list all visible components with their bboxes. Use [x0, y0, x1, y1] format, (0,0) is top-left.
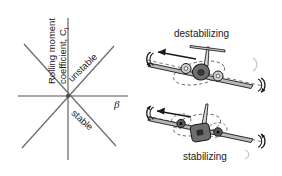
- bottom-engine-right-hub: [217, 131, 220, 134]
- top-engine-right-hub: [216, 74, 220, 78]
- top-cockpit-window: [198, 70, 204, 76]
- rolling-moment-plot: Rolling moment coefficient, Cl unstable …: [0, 0, 141, 176]
- origin-marker: [66, 94, 70, 98]
- bottom-engine-left-hub: [180, 122, 183, 125]
- y-axis-label-line1: Rolling moment: [47, 18, 57, 84]
- bottom-roll-arc-faint: [245, 150, 249, 159]
- bottom-sideslip-arrow: [157, 108, 191, 118]
- aircraft-diagram-panel: destabilizing stabilizing: [141, 0, 282, 176]
- figure-root: Rolling moment coefficient, Cl unstable …: [0, 0, 282, 176]
- top-aircraft-group: [146, 46, 265, 93]
- aircraft-svg: [141, 0, 282, 176]
- top-sideslip-arrow: [158, 49, 196, 60]
- plot-axes-svg: [0, 0, 141, 176]
- top-engine-left-hub: [184, 67, 188, 71]
- y-axis-label-subscript: l: [63, 28, 70, 29]
- bottom-aircraft-group: [147, 104, 265, 159]
- x-axis-label-beta: β: [114, 99, 119, 110]
- top-roll-arc-faint: [253, 58, 257, 71]
- bottom-fuselage-window: [197, 130, 204, 136]
- bottom-vertical-stabilizer: [202, 104, 208, 124]
